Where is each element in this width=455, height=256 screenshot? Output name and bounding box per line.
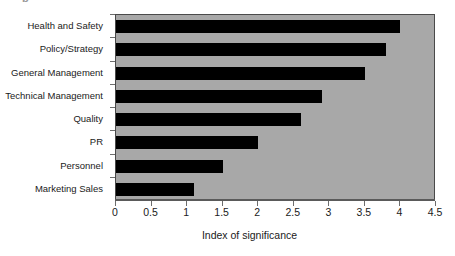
bar-row <box>116 62 434 85</box>
y-axis-label-general-management: General Management <box>11 61 103 84</box>
bars-layer <box>116 15 434 199</box>
x-axis-tick-label: 4.5 <box>415 206 455 218</box>
bar <box>116 20 400 33</box>
y-axis-tick <box>110 177 115 178</box>
bar-row <box>116 38 434 61</box>
y-axis-label-technical-management: Technical Management <box>5 84 103 107</box>
y-axis-tick <box>110 37 115 38</box>
y-axis-tick <box>110 14 115 15</box>
x-axis-tick-label: 3.5 <box>344 206 384 218</box>
y-axis-tick <box>110 84 115 85</box>
x-axis-title: Index of significance <box>0 229 455 241</box>
x-axis-tick-label: 2.5 <box>273 206 313 218</box>
y-axis-label-health-and-safety: Health and Safety <box>27 14 103 37</box>
y-axis-category-labels: Health and SafetyPolicy/StrategyGeneral … <box>0 14 110 200</box>
x-axis-tick-label: 1.5 <box>202 206 242 218</box>
y-axis-label-pr: PR <box>90 130 103 153</box>
bar-chart-figure: p Health and SafetyPolicy/StrategyGenera… <box>0 0 455 256</box>
bar-row <box>116 15 434 38</box>
x-axis-tick-label: 2 <box>237 206 277 218</box>
plot-area <box>115 14 435 200</box>
x-axis-tick-label: 4 <box>379 206 419 218</box>
bar-row <box>116 131 434 154</box>
x-axis-line <box>115 199 435 201</box>
x-axis-tick-label: 0.5 <box>131 206 171 218</box>
bar-row <box>116 178 434 201</box>
bar-row <box>116 155 434 178</box>
y-axis-label-quality: Quality <box>73 107 103 130</box>
x-axis-tick-label: 3 <box>308 206 348 218</box>
y-axis-tick <box>110 130 115 131</box>
x-axis-tick-label: 0 <box>95 206 135 218</box>
bar <box>116 43 386 56</box>
y-axis-tick <box>110 61 115 62</box>
bar <box>116 90 322 103</box>
bar-row <box>116 108 434 131</box>
bar <box>116 67 365 80</box>
bar <box>116 113 301 126</box>
bar <box>116 136 258 149</box>
x-axis-tick-label: 1 <box>166 206 206 218</box>
y-axis-label-personnel: Personnel <box>60 154 103 177</box>
y-axis-tick <box>110 154 115 155</box>
bar <box>116 160 223 173</box>
y-axis-tick <box>110 107 115 108</box>
y-axis-label-policy-strategy: Policy/Strategy <box>40 37 103 60</box>
clipped-text-remnant: p <box>22 0 29 2</box>
bar <box>116 183 194 196</box>
y-axis-label-marketing-sales: Marketing Sales <box>35 177 103 200</box>
bar-row <box>116 85 434 108</box>
